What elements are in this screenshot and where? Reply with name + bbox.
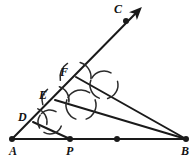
vertex-dot-b <box>183 136 189 142</box>
arc-cross-upper-1 <box>92 71 111 78</box>
point-label-c: C <box>114 3 122 15</box>
vertex-dot-c <box>123 18 129 24</box>
point-label-b: B <box>181 145 189 157</box>
arc-cross-mid-1 <box>68 90 90 97</box>
geometry-canvas <box>0 0 195 160</box>
point-label-f: F <box>60 66 68 78</box>
point-label-a: A <box>9 145 17 157</box>
ray-AC <box>12 13 136 139</box>
chord-F-B <box>76 77 186 139</box>
point-label-e: E <box>39 89 47 101</box>
chord-E-Q <box>55 100 186 139</box>
point-label-p: P <box>66 145 73 157</box>
vertex-dot-p <box>67 136 73 142</box>
vertex-dot-a <box>9 136 15 142</box>
point-label-d: D <box>18 111 27 123</box>
vertex-dot-q <box>114 136 120 142</box>
arc-at-F <box>80 63 91 79</box>
geometry-diagram: APBCDEF <box>0 0 195 160</box>
